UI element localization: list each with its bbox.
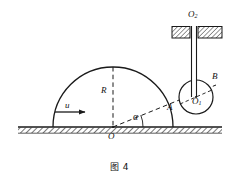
rod-body bbox=[192, 26, 197, 97]
label-o2-subscript: 2 bbox=[195, 13, 198, 19]
label-angle-alpha: α bbox=[133, 113, 138, 123]
physics-figure: O R u α A B O1 O2 图 4 bbox=[0, 0, 239, 189]
vertical-rod bbox=[192, 26, 197, 97]
label-point-a: A bbox=[167, 103, 173, 112]
support-block-right bbox=[198, 27, 222, 39]
label-point-b: B bbox=[212, 72, 218, 81]
label-origin-o: O bbox=[108, 132, 115, 141]
ground-hatching bbox=[18, 128, 222, 133]
figure-caption: 图 4 bbox=[0, 160, 239, 173]
point-o-marker bbox=[112, 126, 114, 128]
ground-surface bbox=[18, 127, 222, 133]
support-block-left bbox=[172, 27, 190, 39]
label-point-o1: O1 bbox=[192, 97, 202, 106]
label-radius-r: R bbox=[101, 86, 107, 95]
label-o1-subscript: 1 bbox=[199, 100, 202, 106]
angle-arc bbox=[141, 115, 143, 127]
label-velocity-u: u bbox=[65, 101, 70, 110]
label-point-o2: O2 bbox=[188, 10, 198, 19]
